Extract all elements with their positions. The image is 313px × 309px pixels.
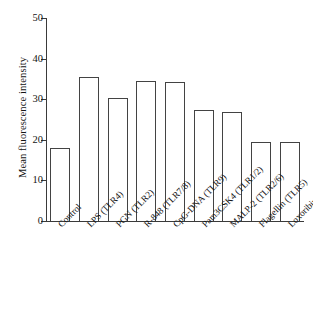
y-tick-label: 30 xyxy=(33,92,44,105)
y-tick-label: 40 xyxy=(33,52,44,65)
y-tick-label: 50 xyxy=(33,11,44,24)
bar xyxy=(79,77,99,221)
y-axis-title: Mean fluorescence intensity xyxy=(17,28,28,208)
x-axis-tick-labels: ControlLPS (TLR4)PGN (TLR2)R-848 (TLR7/8… xyxy=(46,222,308,309)
y-tick-label: 0 xyxy=(38,214,43,227)
y-tick-label: 20 xyxy=(33,133,44,146)
y-tick-label: 10 xyxy=(33,173,44,186)
bar-chart-figure: Mean fluorescence intensity 01020304050 … xyxy=(0,0,313,309)
